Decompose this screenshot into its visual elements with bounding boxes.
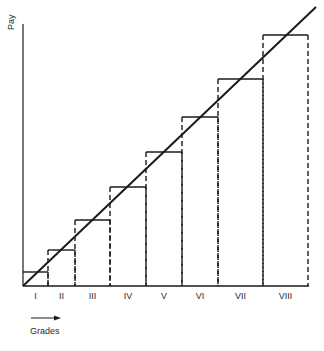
arrow-right-icon: [31, 316, 61, 321]
x-axis-label: Grades: [30, 326, 60, 336]
grade-label-IV: IV: [124, 291, 133, 301]
grade-bands: [23, 35, 308, 286]
grade-label-III: III: [89, 291, 97, 301]
grade-label-VIII: VIII: [279, 291, 293, 301]
grade-label-VI: VI: [196, 291, 205, 301]
grade-label-V: V: [161, 291, 167, 301]
pay-trend-line: [23, 7, 316, 286]
grade-label-VII: VII: [235, 291, 246, 301]
grade-label-I: I: [34, 291, 37, 301]
y-axis-label: Pay: [6, 14, 16, 30]
grade-label-II: II: [59, 291, 64, 301]
